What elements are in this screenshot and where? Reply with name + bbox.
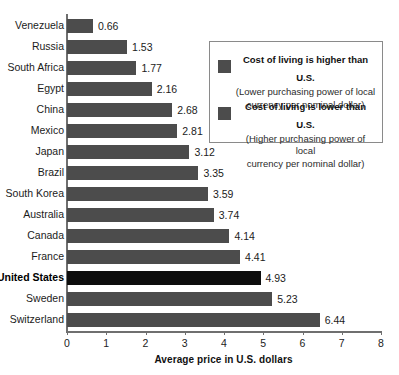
bar-value-label: 0.66: [98, 19, 118, 33]
x-axis-tick: [146, 331, 147, 335]
x-axis-tick-label: 0: [57, 337, 77, 349]
bar-value-label: 5.23: [277, 292, 297, 306]
bar: [67, 166, 198, 180]
category-label: Russia: [0, 40, 64, 53]
bar-value-label: 1.77: [141, 61, 161, 75]
x-axis-tick: [303, 331, 304, 335]
bar-value-label: 2.81: [182, 124, 202, 138]
bar: [67, 61, 136, 75]
x-axis-tick-label: 4: [214, 337, 234, 349]
x-axis-tick: [106, 331, 107, 335]
bar: [67, 271, 261, 285]
bar: [67, 124, 177, 138]
bar-row: Australia3.74: [0, 206, 399, 227]
category-label: France: [0, 250, 64, 263]
category-label: China: [0, 103, 64, 116]
bar-value-label: 4.14: [234, 229, 254, 243]
bar-value-label: 3.59: [213, 187, 233, 201]
category-label: South Africa: [0, 61, 64, 74]
category-label: United States: [0, 271, 64, 284]
category-label: South Korea: [0, 187, 64, 200]
category-label: Brazil: [0, 166, 64, 179]
category-label: Switzerland: [0, 313, 64, 326]
bar-value-label: 3.74: [219, 208, 239, 222]
x-axis-tick: [263, 331, 264, 335]
legend-swatch-icon-higher: [218, 60, 231, 73]
bar-value-label: 4.93: [266, 271, 286, 285]
category-label: Egypt: [0, 82, 64, 95]
bar: [67, 82, 152, 96]
legend-title-lower: Cost of living is lower than U.S.: [245, 101, 366, 130]
x-axis-title: Average price in U.S. dollars: [66, 354, 381, 365]
bar: [67, 229, 229, 243]
bar: [67, 40, 127, 54]
legend-entry-lower-cost: Cost of living is lower than U.S. (Highe…: [210, 96, 382, 170]
bar-value-label: 6.44: [325, 313, 345, 327]
x-axis-tick-label: 1: [96, 337, 116, 349]
bar: [67, 103, 172, 117]
bar: [67, 19, 93, 33]
category-label: Sweden: [0, 292, 64, 305]
legend-text-lower: Cost of living is lower than U.S. (Highe…: [231, 96, 382, 170]
x-axis-tick: [381, 331, 382, 335]
x-axis-tick-label: 8: [371, 337, 391, 349]
x-axis-tick: [224, 331, 225, 335]
x-axis-tick: [67, 331, 68, 335]
bar-value-label: 2.16: [157, 82, 177, 96]
x-axis-tick-label: 3: [175, 337, 195, 349]
legend: Cost of living is higher than U.S. (Lowe…: [209, 41, 383, 143]
x-axis-tick: [342, 331, 343, 335]
x-axis-tick-label: 7: [332, 337, 352, 349]
x-axis-tick-label: 6: [293, 337, 313, 349]
bar-row: Sweden5.23: [0, 290, 399, 311]
category-label: Mexico: [0, 124, 64, 137]
bar-row: Canada4.14: [0, 227, 399, 248]
bar: [67, 187, 208, 201]
category-label: Canada: [0, 229, 64, 242]
category-label: Australia: [0, 208, 64, 221]
bar-row: Switzerland6.44: [0, 311, 399, 332]
legend-swatch-icon-lower: [218, 107, 231, 120]
bar: [67, 250, 240, 264]
bar-value-label: 1.53: [132, 40, 152, 54]
bar-chart: Venezuela0.66Russia1.53South Africa1.77E…: [0, 0, 399, 375]
bar: [67, 208, 214, 222]
x-axis-tick: [185, 331, 186, 335]
x-axis-tick-label: 2: [136, 337, 156, 349]
bar: [67, 292, 272, 306]
category-label: Japan: [0, 145, 64, 158]
bar: [67, 313, 320, 327]
x-axis-tick-label: 5: [253, 337, 273, 349]
bar-row: Venezuela0.66: [0, 17, 399, 38]
bar-row: France4.41: [0, 248, 399, 269]
legend-subtitle-lower-line2: currency per nominal dollar): [235, 158, 376, 170]
legend-title-higher: Cost of living is higher than U.S.: [243, 54, 368, 83]
bar-row: United States4.93: [0, 269, 399, 290]
legend-subtitle-lower-line1: (Higher purchasing power of local: [235, 133, 376, 157]
bar: [67, 145, 189, 159]
bar-row: South Korea3.59: [0, 185, 399, 206]
bar-value-label: 2.68: [177, 103, 197, 117]
category-label: Venezuela: [0, 19, 64, 32]
bar-value-label: 4.41: [245, 250, 265, 264]
